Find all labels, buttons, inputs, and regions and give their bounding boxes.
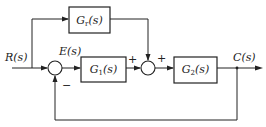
arrow-output bbox=[255, 66, 263, 71]
arrow-into-s2-left bbox=[134, 66, 141, 71]
input-label: R(s) bbox=[4, 51, 28, 64]
arrow-into-s2-top bbox=[146, 54, 151, 61]
arrow-into-g1 bbox=[74, 66, 81, 71]
arrow-into-s1-bottom bbox=[53, 75, 58, 82]
block-gr-label: Gr(s) bbox=[76, 14, 102, 28]
arrow-into-s1 bbox=[41, 66, 48, 71]
s2-top-plus-sign: + bbox=[157, 52, 166, 65]
summing-junction-2 bbox=[141, 61, 155, 75]
block-g2-label: G2(s) bbox=[182, 63, 210, 77]
output-label: C(s) bbox=[233, 51, 256, 64]
block-diagram: Gr(s) G1(s) G2(s) R(s) E(s) C(s) − + + bbox=[0, 0, 266, 127]
arrow-into-g2 bbox=[167, 66, 174, 71]
summing-junction-1 bbox=[48, 61, 62, 75]
s2-left-plus-sign: + bbox=[128, 53, 137, 66]
s1-minus-sign: − bbox=[62, 79, 71, 92]
error-label: E(s) bbox=[58, 45, 81, 58]
arrow-into-gr bbox=[62, 17, 69, 22]
block-g1-label: G1(s) bbox=[90, 63, 118, 77]
